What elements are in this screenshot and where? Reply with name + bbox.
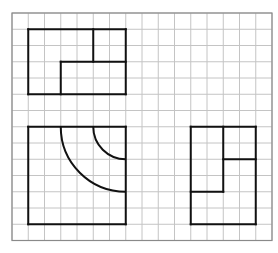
grid-diagram bbox=[0, 0, 278, 253]
